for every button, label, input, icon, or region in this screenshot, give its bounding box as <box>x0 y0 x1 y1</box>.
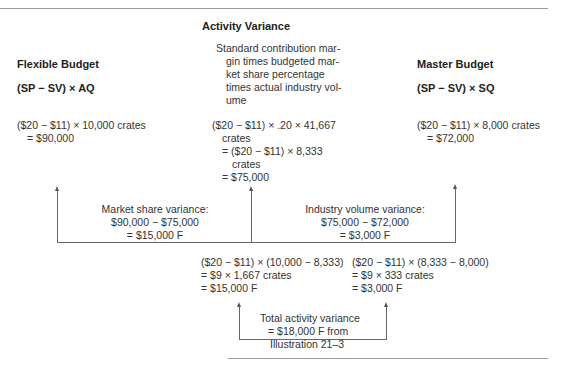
detail-line: ($20 − $11) × (8,333 − 8,000) <box>352 256 489 269</box>
calc-line: = $75,000 <box>212 171 336 184</box>
activity-description: Standard contribution mar- gin times bud… <box>216 42 342 107</box>
top-rule <box>0 8 548 9</box>
calc-line: ($20 − $11) × 8,000 crates <box>417 119 540 132</box>
calc-line: crates <box>212 158 336 171</box>
calc-line: = $72,000 <box>417 132 540 145</box>
label-line: $90,000 − $75,000 <box>80 216 230 229</box>
detail-line: = $9 × 1,667 crates <box>201 269 344 282</box>
flexible-budget-title: Flexible Budget <box>17 58 99 70</box>
market-share-variance-label: Market share variance: $90,000 − $75,000… <box>80 203 230 242</box>
activity-calc: ($20 − $11) × .20 × 41,667 crates = ($20… <box>212 119 336 184</box>
label-line: Industry volume variance: <box>290 203 440 216</box>
label-line: = $18,000 F from <box>260 325 360 338</box>
total-left-connector-line <box>239 306 240 340</box>
total-right-arrow-icon <box>384 302 388 307</box>
label-line: Market share variance: <box>80 203 230 216</box>
detail-line: = $9 × 333 crates <box>352 269 489 282</box>
label-line: Total activity variance <box>260 312 360 325</box>
description-line: Standard contribution mar- <box>216 42 342 55</box>
master-arrow-icon <box>453 184 457 189</box>
flexible-budget-calc: ($20 − $11) × 10,000 crates = $90,000 <box>17 119 146 145</box>
detail-line: ($20 − $11) × (10,000 − 8,333) <box>201 256 344 269</box>
flexible-arrow-icon <box>55 186 59 191</box>
activity-connector-line <box>251 190 252 243</box>
description-line: ume <box>216 94 342 107</box>
detail-line: = $15,000 F <box>201 282 344 295</box>
activity-variance-heading: Activity Variance <box>202 20 290 32</box>
total-left-arrow-icon <box>237 302 241 307</box>
master-budget-formula: (SP − SV) × SQ <box>417 82 494 94</box>
detail-line: = $3,000 F <box>352 282 489 295</box>
calc-line: = $90,000 <box>17 132 146 145</box>
description-line: ket share percentage <box>216 68 342 81</box>
calc-line: ($20 − $11) × 10,000 crates <box>17 119 146 132</box>
description-line: gin times budgeted mar- <box>216 55 342 68</box>
master-budget-title: Master Budget <box>417 58 493 70</box>
total-activity-variance-label: Total activity variance = $18,000 F from… <box>260 312 360 351</box>
master-budget-calc: ($20 − $11) × 8,000 crates = $72,000 <box>417 119 540 145</box>
master-connector-line <box>455 188 456 243</box>
total-right-connector-line <box>386 306 387 340</box>
flexible-connector-line <box>57 190 58 243</box>
label-line: = $15,000 F <box>80 229 230 242</box>
label-line: = $3,000 F <box>290 229 440 242</box>
label-line: Illustration 21–3 <box>260 338 360 351</box>
industry-volume-variance-label: Industry volume variance: $75,000 − $72,… <box>290 203 440 242</box>
flexible-budget-formula: (SP − SV) × AQ <box>17 82 95 94</box>
description-line: times actual industry vol- <box>216 81 342 94</box>
bottom-rule <box>228 358 548 359</box>
calc-line: = ($20 − $11) × 8,333 <box>212 145 336 158</box>
activity-arrow-icon <box>249 186 253 191</box>
market-share-variance-detail: ($20 − $11) × (10,000 − 8,333) = $9 × 1,… <box>201 256 344 295</box>
industry-volume-variance-detail: ($20 − $11) × (8,333 − 8,000) = $9 × 333… <box>352 256 489 295</box>
calc-line: crates <box>212 132 336 145</box>
label-line: $75,000 − $72,000 <box>290 216 440 229</box>
calc-line: ($20 − $11) × .20 × 41,667 <box>212 119 336 132</box>
upper-bracket-baseline <box>57 242 456 243</box>
